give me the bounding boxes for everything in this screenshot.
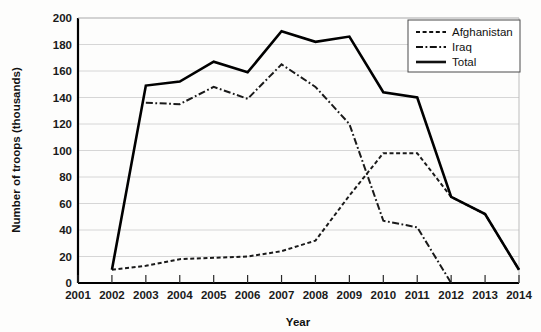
x-tick-label: 2001	[65, 289, 91, 301]
legend-label-total: Total	[452, 56, 476, 68]
y-tick-label: 120	[53, 118, 72, 130]
legend-label-iraq: Iraq	[452, 41, 472, 53]
x-tick-label: 2006	[235, 289, 261, 301]
x-tick-label: 2007	[269, 289, 295, 301]
x-tick-label: 2002	[99, 289, 125, 301]
x-tick-label: 2004	[167, 289, 193, 301]
y-tick-label: 20	[59, 251, 72, 263]
x-tick-label: 2012	[438, 289, 464, 301]
y-tick-label: 40	[59, 224, 72, 236]
y-tick-label: 140	[53, 92, 72, 104]
x-tick-label: 2009	[337, 289, 363, 301]
x-tick-label: 2008	[303, 289, 329, 301]
y-tick-label: 60	[59, 198, 72, 210]
y-tick-label: 100	[53, 145, 72, 157]
y-tick-label: 180	[53, 39, 72, 51]
x-tick-label: 2003	[133, 289, 159, 301]
y-tick-label: 0	[66, 277, 72, 289]
legend-label-afghanistan: Afghanistan	[452, 26, 513, 38]
x-tick-label: 2013	[472, 289, 498, 301]
x-axis-title: Year	[286, 316, 311, 328]
y-tick-label: 80	[59, 171, 72, 183]
chart-legend: AfghanistanIraqTotal	[408, 20, 520, 72]
x-tick-label: 2014	[506, 289, 532, 301]
y-tick-label: 200	[53, 12, 72, 24]
x-tick-label: 2011	[405, 289, 431, 301]
y-axis-title: Number of troops (thousands)	[10, 67, 22, 233]
y-tick-label: 160	[53, 65, 72, 77]
x-tick-label: 2005	[201, 289, 227, 301]
chart-container: 020406080100120140160180200 200120022003…	[0, 0, 541, 332]
x-tick-label: 2010	[371, 289, 397, 301]
troops-line-chart: 020406080100120140160180200 200120022003…	[0, 0, 541, 332]
